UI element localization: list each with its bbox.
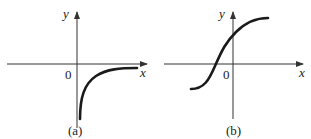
- curve-a: [80, 68, 137, 119]
- y-axis-label-b: y: [219, 7, 225, 20]
- y-axis-label-a: y: [63, 7, 69, 20]
- caption-a: (a): [68, 124, 82, 137]
- x-axis-label-b: x: [299, 66, 305, 79]
- panel-a: [7, 12, 147, 128]
- curve-b: [191, 18, 268, 89]
- origin-label-a: 0: [65, 68, 72, 81]
- x-axis-label-a: x: [140, 66, 146, 79]
- figure-canvas: [0, 0, 311, 139]
- origin-label-b: 0: [223, 68, 230, 81]
- panel-b: [164, 12, 303, 119]
- caption-b: (b): [226, 124, 241, 137]
